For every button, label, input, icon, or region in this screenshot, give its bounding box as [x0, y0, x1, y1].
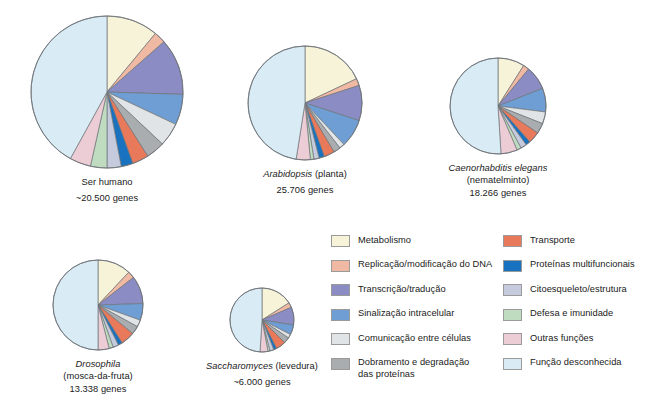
legend-item-protein_folding_degradation: Dobramento e degradaçãodas proteínas [331, 357, 503, 382]
legend-label-intracellular_signaling: Sinalização intracelular [358, 308, 454, 320]
organism-name-drosophila: Drosophila [63, 358, 133, 370]
legend-swatch-transcription_translation [331, 284, 350, 296]
legend-swatch-other_functions [503, 333, 522, 345]
organism-name-saccharomyces: Saccharomyces (levedura) [206, 360, 318, 372]
legend: MetabolismoReplicação/modificação do DNA… [331, 234, 667, 382]
pie-slice-saccharomyces-11 [230, 288, 262, 352]
legend-item-cell_communication: Comunicação entre células [331, 332, 503, 357]
pie-chart-saccharomyces [228, 286, 296, 354]
legend-swatch-metabolism [331, 235, 350, 247]
gene-count-human: ~20.500 genes [76, 192, 138, 204]
pie-panel-celegans: Caenorhabditis elegans(nematelminto)18.2… [418, 56, 578, 199]
pie-chart-celegans [448, 56, 548, 156]
legend-swatch-multifunctional_proteins [503, 260, 522, 272]
pie-slice-drosophila-11 [53, 260, 98, 350]
legend-item-transcription_translation: Transcrição/tradução [331, 283, 503, 308]
pie-caption-human: Ser humano~20.500 genes [76, 176, 138, 205]
legend-label-protein_folding_degradation: Dobramento e degradaçãodas proteínas [358, 357, 469, 381]
legend-swatch-protein_folding_degradation [331, 358, 350, 370]
pie-panel-arabidopsis: Arabidopsis (planta)25.706 genes [230, 44, 380, 197]
legend-swatch-cell_communication [331, 333, 350, 345]
pie-caption-drosophila: Drosophila(mosca-da-fruta)13.338 genes [63, 358, 133, 395]
gene-count-saccharomyces: ~6.000 genes [206, 376, 318, 388]
legend-label-cell_communication: Comunicação entre células [358, 332, 471, 344]
legend-label-transcription_translation: Transcrição/tradução [358, 283, 446, 295]
legend-swatch-transport [503, 235, 522, 247]
organism-name-human: Ser humano [76, 176, 138, 188]
pie-panel-drosophila: Drosophila(mosca-da-fruta)13.338 genes [18, 258, 178, 395]
legend-item-cytoskeleton_structure: Citoesqueleto/estrutura [503, 283, 667, 308]
legend-item-intracellular_signaling: Sinalização intracelular [331, 308, 503, 333]
legend-label-transport: Transporte [530, 234, 575, 246]
legend-item-multifunctional_proteins: Proteínas multifuncionais [503, 259, 667, 284]
legend-item-defense_immunity: Defesa e imunidade [503, 308, 667, 333]
legend-item-dna_replication: Replicação/modificação do DNA [331, 259, 503, 284]
legend-item-other_functions: Outras funções [503, 332, 667, 357]
legend-label-unknown_function: Função desconhecida [530, 357, 622, 369]
gene-count-celegans: 18.266 genes [449, 187, 548, 199]
gene-count-drosophila: 13.338 genes [63, 383, 133, 395]
legend-label-metabolism: Metabolismo [358, 234, 411, 246]
legend-swatch-unknown_function [503, 358, 522, 370]
gene-count-arabidopsis: 25.706 genes [263, 184, 347, 196]
legend-label-multifunctional_proteins: Proteínas multifuncionais [530, 259, 635, 271]
pie-slice-arabidopsis-11 [248, 46, 305, 159]
pie-caption-celegans: Caenorhabditis elegans(nematelminto)18.2… [449, 162, 548, 199]
legend-label-protein_folding_degradation-line2: das proteínas [358, 369, 469, 381]
legend-swatch-intracellular_signaling [331, 309, 350, 321]
pie-caption-arabidopsis: Arabidopsis (planta)25.706 genes [263, 168, 347, 197]
pie-panel-saccharomyces: Saccharomyces (levedura)~6.000 genes [182, 286, 342, 389]
legend-swatch-cytoskeleton_structure [503, 284, 522, 296]
legend-swatch-dna_replication [331, 260, 350, 272]
legend-item-transport: Transporte [503, 234, 667, 259]
legend-label-defense_immunity: Defesa e imunidade [530, 308, 613, 320]
organism-subname-drosophila: (mosca-da-fruta) [63, 370, 133, 382]
pie-panel-human: Ser humano~20.500 genes [12, 14, 202, 205]
legend-item-unknown_function: Função desconhecida [503, 357, 667, 382]
legend-label-cytoskeleton_structure: Citoesqueleto/estrutura [530, 283, 627, 295]
pie-caption-saccharomyces: Saccharomyces (levedura)~6.000 genes [206, 360, 318, 389]
legend-column-left: MetabolismoReplicação/modificação do DNA… [331, 234, 503, 382]
organism-name-arabidopsis: Arabidopsis (planta) [263, 168, 347, 180]
legend-item-metabolism: Metabolismo [331, 234, 503, 259]
legend-swatch-defense_immunity [503, 309, 522, 321]
legend-column-right: TransporteProteínas multifuncionaisCitoe… [503, 234, 667, 382]
pie-chart-drosophila [51, 258, 145, 352]
organism-name-celegans: Caenorhabditis elegans [449, 162, 548, 174]
pie-chart-arabidopsis [246, 44, 364, 162]
legend-label-dna_replication: Replicação/modificação do DNA [358, 259, 492, 271]
pie-chart-human [29, 14, 185, 170]
pie-slice-celegans-11 [450, 58, 501, 154]
legend-label-other_functions: Outras funções [530, 332, 593, 344]
organism-subname-celegans: (nematelminto) [449, 174, 548, 186]
